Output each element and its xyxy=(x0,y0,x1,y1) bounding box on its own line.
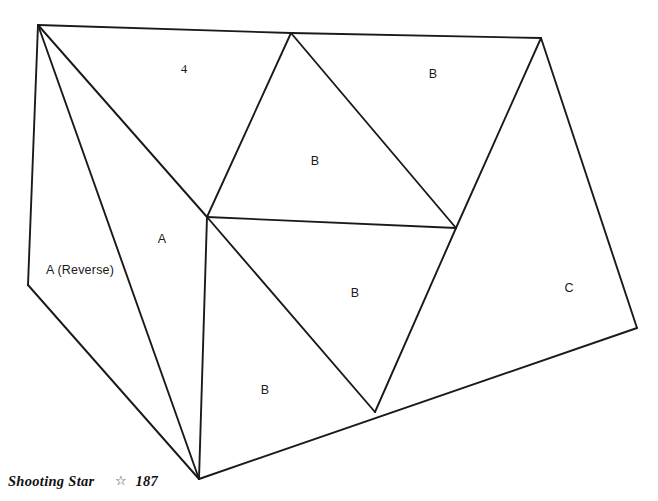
diagram-edge-top-right-to-right-mid xyxy=(456,38,541,228)
diagram-edge-group xyxy=(28,25,637,479)
diagram-edge-center-to-bottom xyxy=(199,217,207,479)
block-diagram xyxy=(0,0,658,501)
piece-label-b-upper-middle: B xyxy=(311,155,320,168)
book-title: Shooting Star xyxy=(8,473,95,490)
diagram-edge-top-left-to-apex xyxy=(38,25,291,33)
diagram-edge-left-to-bottom xyxy=(28,285,199,479)
page-canvas: 4BBAA (Reverse)BCB Shooting Star ☆ 187 xyxy=(0,0,658,501)
piece-label-b-lower-left: B xyxy=(261,384,270,397)
diagram-edge-top-right-to-right xyxy=(541,38,637,328)
diagram-edge-center-to-right-mid xyxy=(207,217,456,228)
piece-label-b-center: B xyxy=(351,287,360,300)
piece-label-c: C xyxy=(564,282,573,295)
star-outline-icon: ☆ xyxy=(115,474,127,487)
piece-label-b-top-right: B xyxy=(429,68,438,81)
diagram-edge-right-to-bottom xyxy=(199,328,637,479)
piece-label-a: A xyxy=(158,233,167,246)
diagram-edge-top-left-to-bottom xyxy=(38,25,199,479)
diagram-edge-top-left-to-left xyxy=(28,25,38,285)
diagram-edge-right-mid-to-bottom-mid xyxy=(375,228,456,412)
page-footer: Shooting Star ☆ 187 xyxy=(8,473,158,490)
page-number: 187 xyxy=(136,473,159,490)
diagram-edge-top-left-to-center xyxy=(38,25,207,217)
piece-label-a-reverse: A (Reverse) xyxy=(46,264,114,277)
diagram-edge-apex-to-top-right xyxy=(291,33,541,38)
diagram-edge-center-to-bottom-mid xyxy=(207,217,375,412)
diagram-edge-apex-to-right-mid xyxy=(291,33,456,228)
piece-label-4: 4 xyxy=(181,62,188,75)
diagram-edge-apex-to-center xyxy=(207,33,291,217)
